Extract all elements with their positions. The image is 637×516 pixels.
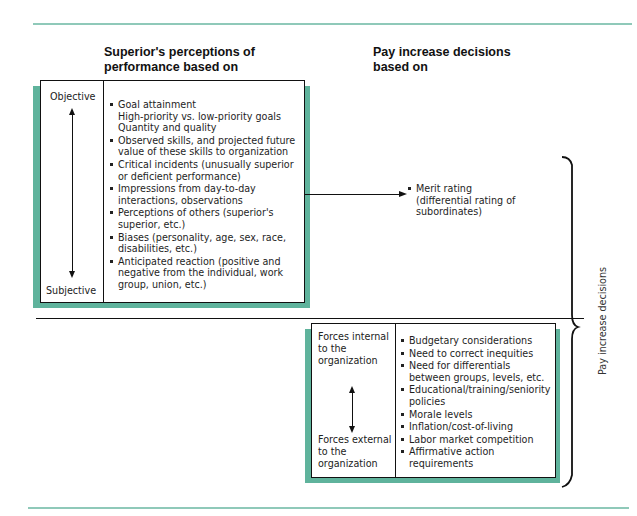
heading-pay-line1: Pay increase decisions (373, 45, 511, 60)
list-item: Inflation/cost-of-living (401, 421, 551, 433)
list-item: Labor market competition (401, 434, 551, 446)
list-item: Educational/training/seniority policies (401, 384, 551, 407)
list-item: Critical incidents (unusually superior o… (110, 159, 300, 182)
scale-objective-label: Objective (50, 91, 96, 103)
heading-perceptions-line1: Superior's perceptions of (104, 45, 255, 60)
bottom-rule (28, 507, 629, 509)
list-item: Affirmative action requirements (401, 446, 551, 469)
list-item: Biases (personality, age, sex, race, dis… (110, 232, 300, 255)
list-item: Anticipated reaction (positive and negat… (110, 256, 300, 291)
heading-pay-line2: based on (373, 60, 511, 75)
merit-rating: Merit rating (differential rating of sub… (408, 183, 528, 219)
arrow-right-icon (399, 191, 407, 197)
list-item: Need for differentials between groups, l… (401, 360, 551, 383)
bracket-label: Pay increase decisions (597, 267, 608, 375)
heading-perceptions-line2: performance based on (104, 60, 255, 75)
section-separator (36, 318, 584, 319)
forces-box: Forces internal to the organization Forc… (311, 323, 556, 478)
list-item: Observed skills, and projected future va… (110, 135, 300, 158)
list-item: Budgetary considerations (401, 335, 551, 347)
list-item: Perceptions of others (superior's superi… (110, 207, 300, 230)
arrow-down-icon (349, 426, 355, 433)
top-rule (33, 23, 632, 25)
arrow-down-icon (69, 271, 75, 278)
curly-brace-icon (560, 155, 590, 490)
perceptions-box-divider (103, 81, 104, 302)
connector-line (305, 194, 401, 195)
list-item: Impressions from day-to-day interactions… (110, 183, 300, 206)
forces-box-divider (395, 324, 396, 477)
scale-subjective-label: Subjective (46, 285, 96, 297)
list-item: Goal attainment High-priority vs. low-pr… (110, 99, 300, 134)
forces-list: Budgetary considerations Need to correct… (401, 335, 551, 471)
list-item: Need to correct inequities (401, 348, 551, 360)
heading-perceptions: Superior's perceptions of performance ba… (104, 45, 255, 75)
list-item: Merit rating (differential rating of sub… (408, 183, 528, 218)
objective-subjective-axis (72, 114, 73, 272)
forces-internal-label: Forces internal to the organization (318, 331, 394, 367)
heading-pay-decisions: Pay increase decisions based on (373, 45, 511, 75)
forces-external-label: Forces external to the organization (318, 434, 394, 470)
perceptions-list: Goal attainment High-priority vs. low-pr… (110, 99, 300, 292)
internal-external-axis (352, 392, 353, 428)
list-item: Morale levels (401, 409, 551, 421)
perceptions-box: Objective Subjective Goal attainment Hig… (40, 80, 305, 303)
